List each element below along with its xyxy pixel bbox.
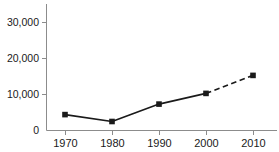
- y-tick-label-0: 0: [0, 125, 39, 136]
- x-tick-label-1990: 1990: [138, 137, 181, 149]
- data-point-1990: [156, 101, 162, 107]
- x-tick-label-1980: 1980: [91, 137, 134, 149]
- line-chart-plot: [0, 0, 279, 152]
- data-point-1980: [109, 119, 115, 125]
- data-point-2000: [203, 91, 209, 97]
- chart-container: T 30,000 20,000 10,000 0 1970 1980 1990 …: [0, 0, 279, 152]
- data-point-1970: [62, 112, 68, 118]
- y-tick-label-30000: 30,000: [0, 17, 39, 28]
- y-tick-label-10000: 10,000: [0, 89, 39, 100]
- y-tick-label-20000: 20,000: [0, 53, 39, 64]
- x-tick-label-2010: 2010: [232, 137, 275, 149]
- x-tick-label-2000: 2000: [185, 137, 228, 149]
- data-point-2010: [250, 73, 256, 79]
- data-line-observed: [65, 93, 206, 121]
- x-tick-label-1970: 1970: [44, 137, 87, 149]
- data-line-projected: [206, 75, 253, 93]
